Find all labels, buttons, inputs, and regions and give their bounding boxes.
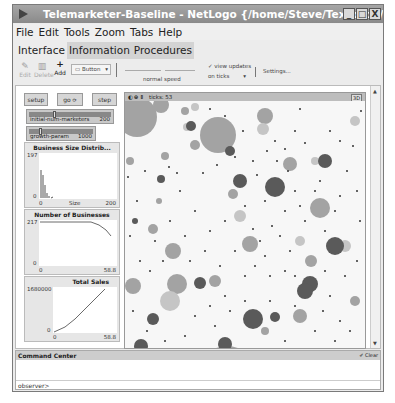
delete-button[interactable]: ▥ Delete	[34, 62, 50, 78]
settings-button[interactable]: Settings...	[263, 68, 291, 74]
widget-type-value: Button	[82, 66, 100, 72]
menu-edit[interactable]: Edit	[39, 24, 59, 40]
trash-icon: ▥	[34, 62, 50, 71]
separator	[255, 67, 256, 77]
maximize-button[interactable]: □	[356, 8, 368, 20]
plot-xmin: 0	[39, 200, 43, 206]
forever-icon: ⟳	[73, 97, 77, 103]
title-bar[interactable]: Telemarketer-Baseline - NetLogo {/home/S…	[13, 5, 383, 23]
world-view[interactable]: ◐⊕⇕ ticks: 53 3D	[124, 92, 366, 349]
slider-value: 200	[100, 116, 111, 123]
minimize-button[interactable]: _	[343, 8, 355, 20]
speed-slider-right[interactable]	[165, 70, 195, 71]
tab-information[interactable]: Information	[67, 42, 132, 59]
update-mode-select[interactable]: on ticks ▾	[208, 73, 248, 79]
view-header: ◐⊕⇕ ticks: 53 3D	[125, 93, 365, 101]
view-updates-label: view updates	[214, 63, 251, 69]
menu-zoom[interactable]: Zoom	[95, 24, 125, 40]
agents-display	[125, 101, 365, 348]
plot-number-of-businesses: Number of Businesses 217 0 0 58.8	[24, 209, 120, 275]
chevron-down-icon: ▾	[105, 65, 108, 74]
speed-label: normal speed	[143, 76, 181, 82]
menu-file[interactable]: File	[16, 24, 34, 40]
scroll-up-icon[interactable]: ▲	[373, 88, 377, 94]
command-center: Command Center ✐ Clear observer>	[15, 350, 381, 390]
setup-button[interactable]: setup	[24, 93, 48, 106]
interface-toolbar: ✎ Edit ▥ Delete + Add ▭ Button ▾ normal …	[15, 60, 381, 84]
add-label: Add	[53, 69, 67, 76]
window-title: Telemarketer-Baseline - NetLogo {/home/S…	[43, 8, 383, 20]
slider-initial-num-marketers[interactable]: initial-num-marketers 200	[26, 109, 114, 124]
scroll-down-icon[interactable]: ▼	[373, 340, 377, 346]
edit-button[interactable]: ✎ Edit	[19, 62, 31, 78]
update-mode-value: on ticks	[208, 73, 229, 79]
menu-tools[interactable]: Tools	[64, 24, 90, 40]
plot-xmax: 58.8	[104, 267, 116, 273]
clear-label: Clear	[365, 352, 378, 358]
tab-procedures[interactable]: Procedures	[132, 42, 194, 59]
plot-title: Total Sales	[25, 278, 119, 285]
menu-bar: File Edit Tools Zoom Tabs Help	[13, 24, 383, 40]
slider-value: 1000	[78, 133, 92, 140]
plot-total-sales: Total Sales 1680000 0 0 58.8	[24, 276, 120, 342]
plot-ymax: 1680000	[27, 286, 52, 292]
speed-slider-left[interactable]	[125, 70, 161, 71]
world-canvas[interactable]	[125, 101, 365, 348]
step-button[interactable]: step	[92, 93, 117, 106]
button-widget-icon: ▭	[75, 66, 82, 72]
plot-ymax: 217	[27, 219, 38, 225]
slider-label: initial-num-marketers	[30, 116, 89, 123]
go-label: go	[63, 96, 70, 103]
line-chart	[39, 220, 117, 266]
plot-business-size: Business Size Distrib... 197 0 0 Size 20…	[24, 142, 120, 208]
menu-tabs[interactable]: Tabs	[130, 24, 153, 40]
separator	[116, 63, 117, 77]
add-button[interactable]: + Add	[53, 60, 67, 76]
netlogo-window: Telemarketer-Baseline - NetLogo {/home/S…	[12, 4, 384, 392]
pencil-icon: ✎	[19, 62, 31, 71]
plot-ymin: 0	[47, 327, 51, 333]
plot-ymax: 197	[27, 152, 38, 158]
close-button[interactable]: X	[369, 8, 381, 20]
go-button[interactable]: go ⟳	[57, 93, 83, 106]
slider-growth-param[interactable]: growth-param 1000	[26, 126, 96, 141]
plot-xmin: 0	[39, 267, 43, 273]
slider-label: growth-param	[30, 133, 69, 140]
plot-xlabel: Size	[69, 200, 80, 206]
plot-xmax: 58.8	[104, 334, 116, 340]
plus-icon: +	[53, 60, 67, 69]
command-input[interactable]: observer>	[16, 380, 380, 389]
ticks-counter: ticks: 53	[149, 93, 172, 101]
clear-button[interactable]: ✐ Clear	[359, 351, 378, 360]
command-center-header: Command Center ✐ Clear	[16, 351, 380, 360]
plot-title: Number of Businesses	[25, 211, 119, 218]
tab-bar: Interface Information Procedures	[16, 42, 194, 59]
plot-ymin: 0	[33, 193, 37, 199]
widget-type-select[interactable]: ▭ Button ▾	[71, 64, 111, 75]
line-chart	[53, 287, 117, 333]
view-control-icons[interactable]: ◐⊕⇕	[128, 93, 145, 101]
observer-prompt: observer>	[18, 382, 50, 389]
edit-label: Edit	[19, 71, 31, 78]
netlogo-logo-icon	[19, 9, 28, 19]
plot-title: Business Size Distrib...	[25, 144, 119, 151]
plot-xmin: 0	[53, 334, 57, 340]
delete-label: Delete	[34, 71, 50, 78]
interface-panel: setup go ⟳ step initial-num-marketers 20…	[15, 85, 381, 349]
view-updates-checkbox[interactable]: ✓ view updates	[208, 63, 251, 69]
chevron-down-icon: ▾	[243, 73, 246, 79]
interface-scrollbar[interactable]: ▲ ▼	[370, 86, 380, 348]
tab-interface[interactable]: Interface	[16, 42, 67, 59]
histogram-bars	[39, 153, 117, 199]
plot-xmax: 200	[106, 200, 117, 206]
menu-help[interactable]: Help	[158, 24, 182, 40]
plot-ymin: 0	[33, 260, 37, 266]
command-center-title: Command Center	[18, 352, 76, 359]
